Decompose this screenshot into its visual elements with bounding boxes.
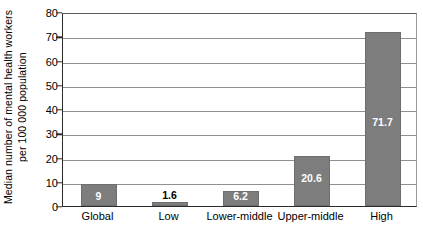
bar-value-label: 1.6 (162, 190, 177, 201)
y-axis-tick-labels: 01020304050607080 (34, 0, 58, 240)
bar-value-label: 20.6 (301, 173, 321, 184)
y-tick-label: 50 (36, 80, 58, 91)
bar-series: 91.66.220.671.7 (63, 14, 416, 206)
y-tick-label: 80 (36, 8, 58, 19)
bar: 6.2 (223, 191, 259, 206)
bar: 9 (81, 184, 117, 206)
bar-value-label: 6.2 (233, 191, 248, 202)
bar-chart: Median number of mental health workers p… (0, 0, 423, 240)
x-tick-label: Upper-middle (277, 210, 343, 222)
y-axis-title-line-1: Median number of mental health workers (2, 0, 14, 214)
bar: 71.7 (365, 32, 401, 206)
bar-value-label: 71.7 (372, 117, 392, 128)
y-tick-label: 20 (36, 153, 58, 164)
bar-value-label: 9 (96, 191, 102, 202)
y-tick-label: 30 (36, 129, 58, 140)
x-tick-label: High (370, 210, 393, 222)
y-tick-label: 40 (36, 105, 58, 116)
x-tick-label: Global (82, 210, 114, 222)
bar: 20.6 (294, 156, 330, 206)
plot-area: 91.66.220.671.7 (62, 13, 417, 207)
y-tick-label: 60 (36, 56, 58, 67)
y-tick-label: 10 (36, 177, 58, 188)
y-tick-label: 0 (36, 202, 58, 213)
bar: 1.6 (152, 202, 188, 206)
y-tick-label: 70 (36, 32, 58, 43)
y-axis-title-line-2: per 100 000 population (16, 0, 28, 214)
y-axis-title: Median number of mental health workers p… (0, 0, 34, 214)
x-tick-label: Low (158, 210, 178, 222)
x-tick-label: Lower-middle (206, 210, 272, 222)
x-axis-tick-labels: GlobalLowLower-middleUpper-middleHigh (62, 210, 417, 232)
